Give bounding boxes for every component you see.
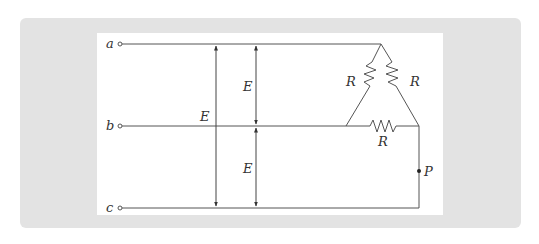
voltage-label-ab: E <box>243 80 253 93</box>
resistor-bottom-label: R <box>378 135 388 148</box>
terminal-b-label: b <box>106 119 114 132</box>
voltage-label-bc: E <box>243 162 253 175</box>
circuit-diagram <box>0 0 539 244</box>
resistor-right-label: R <box>410 75 420 88</box>
voltage-label-ac: E <box>200 110 210 123</box>
terminal-c-icon <box>118 206 122 210</box>
point-p-dot-icon <box>417 169 421 173</box>
point-p-label: P <box>424 165 433 178</box>
terminal-b-icon <box>118 124 122 128</box>
resistor-bottom-icon <box>346 120 419 132</box>
resistor-left-label: R <box>346 75 356 88</box>
terminal-c-label: c <box>106 201 113 214</box>
terminal-a-icon <box>118 42 122 46</box>
terminal-a-label: a <box>106 37 114 50</box>
